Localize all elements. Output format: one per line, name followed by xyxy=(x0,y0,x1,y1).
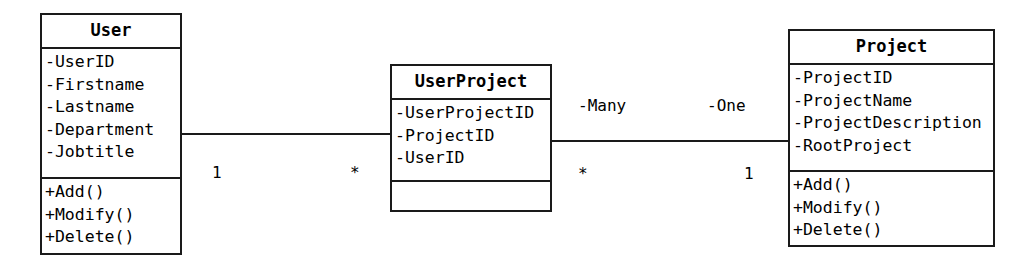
uml-class-diagram: User -UserID -Firstname -Lastname -Depar… xyxy=(0,0,1036,269)
attributes-compartment-userproject: -UserProjectID -ProjectID -UserID xyxy=(392,98,550,180)
attribute-item: -UserID xyxy=(45,51,180,74)
attributes-compartment-user: -UserID -Firstname -Lastname -Department… xyxy=(42,47,180,177)
role-label-many: -Many xyxy=(578,98,626,114)
method-item: +Modify() xyxy=(793,197,993,220)
class-title-project: Project xyxy=(790,31,993,63)
attribute-item: -ProjectID xyxy=(793,67,993,90)
methods-compartment-user: +Add() +Modify() +Delete() xyxy=(42,177,180,252)
attribute-item: -Lastname xyxy=(45,96,180,119)
class-box-user[interactable]: User -UserID -Firstname -Lastname -Depar… xyxy=(40,13,182,255)
method-item: +Modify() xyxy=(45,204,180,227)
method-item: +Add() xyxy=(793,174,993,197)
association-line-user-userproject xyxy=(182,133,390,135)
association-line-userproject-project xyxy=(552,140,788,142)
attribute-item: -RootProject xyxy=(793,135,993,158)
attribute-item: -ProjectName xyxy=(793,90,993,113)
attribute-item: -ProjectDescription xyxy=(793,112,993,135)
class-name-compartment-user: User xyxy=(42,15,180,47)
attribute-item: -UserProjectID xyxy=(395,102,550,125)
class-name-compartment-project: Project xyxy=(790,31,993,63)
method-item: +Delete() xyxy=(793,219,993,242)
attributes-compartment-project: -ProjectID -ProjectName -ProjectDescript… xyxy=(790,63,993,170)
class-name-compartment-userproject: UserProject xyxy=(392,66,550,98)
methods-compartment-project: +Add() +Modify() +Delete() xyxy=(790,170,993,245)
class-box-userproject[interactable]: UserProject -UserProjectID -ProjectID -U… xyxy=(390,64,552,212)
attribute-item: -Department xyxy=(45,119,180,142)
multiplicity-user-side: 1 xyxy=(212,165,222,181)
class-box-project[interactable]: Project -ProjectID -ProjectName -Project… xyxy=(788,29,995,247)
attribute-item: -UserID xyxy=(395,147,550,170)
role-label-one: -One xyxy=(707,98,746,114)
attribute-item: -ProjectID xyxy=(395,125,550,148)
class-title-userproject: UserProject xyxy=(392,66,550,98)
method-item: +Add() xyxy=(45,181,180,204)
methods-compartment-userproject xyxy=(392,180,550,210)
class-title-user: User xyxy=(42,15,180,47)
multiplicity-userproject-left-side: * xyxy=(350,165,360,181)
multiplicity-project-side: 1 xyxy=(744,166,754,182)
multiplicity-userproject-right-side: * xyxy=(578,166,588,182)
attribute-item: -Jobtitle xyxy=(45,141,180,164)
attribute-item: -Firstname xyxy=(45,74,180,97)
method-item: +Delete() xyxy=(45,226,180,249)
